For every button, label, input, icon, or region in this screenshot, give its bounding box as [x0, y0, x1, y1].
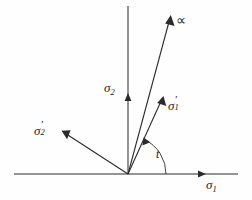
label-sigma-2-prime-marks: ′2	[40, 122, 45, 135]
sigma-1-axis-arrowhead	[198, 171, 206, 178]
alpha-vector-line	[128, 18, 170, 174]
label-angle-t: t	[156, 148, 159, 160]
label-sigma-1-prime-marks: ′1	[174, 97, 179, 110]
label-alpha-text: ∝	[176, 13, 186, 28]
label-sigma-2-prime: σ′2	[34, 122, 45, 137]
label-sigma-2: σ2	[104, 81, 115, 96]
label-sigma-1-prime-subscript: 1	[174, 103, 178, 112]
label-alpha: ∝	[176, 14, 186, 28]
sigma-1-prime-vector-arrowhead	[157, 96, 166, 106]
diagram-svg	[0, 0, 252, 200]
sigma-2-axis-arrowhead	[125, 93, 132, 101]
label-sigma-1-subscript: 1	[212, 184, 216, 194]
label-sigma-2-prime-subscript: 2	[40, 128, 44, 137]
label-sigma-1-prime: σ′1	[168, 97, 179, 112]
label-angle-t-text: t	[156, 147, 159, 161]
label-sigma-1: σ1	[206, 178, 217, 193]
label-sigma-2-subscript: 2	[110, 87, 114, 97]
alpha-vector-arrowhead	[165, 15, 174, 26]
sigma-2-prime-vector-line	[64, 133, 128, 175]
sigma-2-prime-vector-arrowhead	[62, 130, 71, 139]
vector-diagram-canvas: ∝ σ2 σ′1 σ′2 t σ1	[0, 0, 252, 200]
angle-arc-arrowhead	[142, 137, 150, 145]
